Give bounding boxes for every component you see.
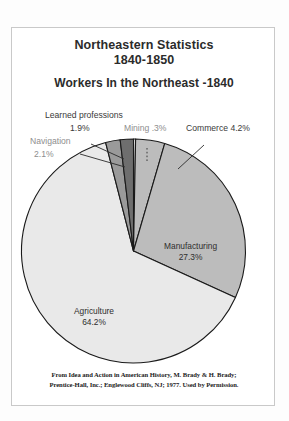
slice-label-manufacturing-name: Manufacturing	[164, 241, 217, 252]
slice-label-agriculture: Agriculture 64.2%	[74, 306, 114, 327]
callout-mining: Mining .3%	[124, 123, 167, 134]
callout-learned-professions-label: Learned professions	[45, 110, 123, 120]
callout-navigation-label: Navigation	[30, 136, 71, 146]
callout-navigation: Navigation	[30, 136, 71, 147]
callout-mining-label: Mining .3%	[124, 123, 167, 133]
slice-label-agriculture-name: Agriculture	[74, 306, 114, 317]
callout-navigation-value: 2.1%	[34, 149, 54, 160]
callout-learned-professions-value: 1.9%	[70, 123, 90, 134]
pie-chart: Learned professions 1.9% Navigation 2.1%…	[12, 28, 276, 407]
image-canvas: Northeastern Statistics 1840-1850 Worker…	[0, 0, 289, 421]
chart-frame: Northeastern Statistics 1840-1850 Worker…	[11, 27, 275, 406]
callout-navigation-value-text: 2.1%	[34, 149, 54, 159]
credit-line-1: From Idea and Action in American History…	[12, 370, 276, 380]
slice-label-manufacturing: Manufacturing 27.3%	[164, 241, 217, 262]
slice-label-agriculture-value: 64.2%	[74, 317, 114, 328]
pie-chart-svg	[12, 28, 276, 407]
credit-line-2: Prentice-Hall, Inc.; Englewood Cliffs, N…	[12, 380, 276, 390]
callout-commerce-label: Commerce 4.2%	[186, 123, 250, 133]
callout-commerce: Commerce 4.2%	[186, 123, 250, 134]
slice-label-manufacturing-value: 27.3%	[164, 252, 217, 263]
callout-learned-professions-value-text: 1.9%	[70, 123, 90, 133]
callout-learned-professions: Learned professions	[45, 110, 123, 121]
